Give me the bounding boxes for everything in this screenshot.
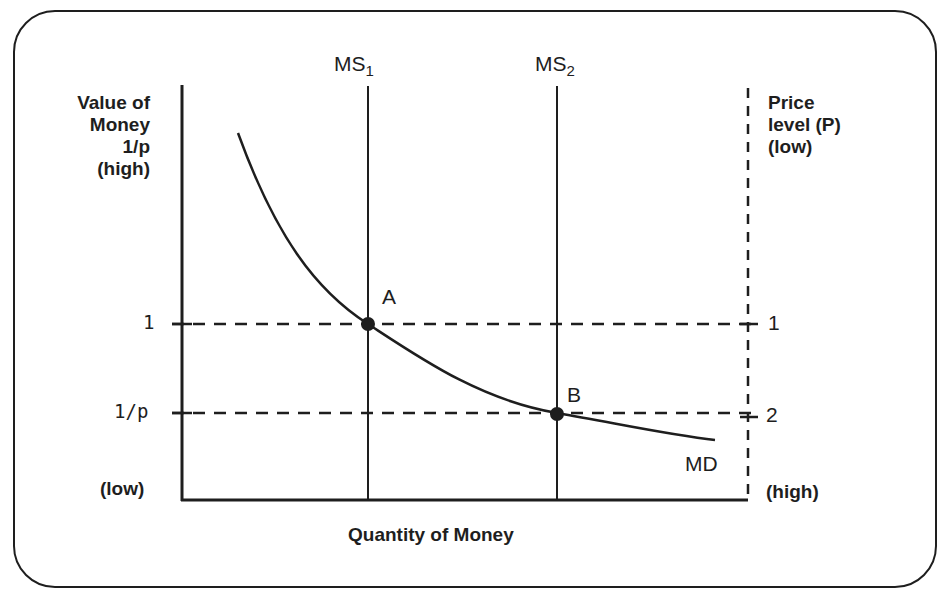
right-tick-1: 1 [768,311,780,335]
point-a-marker [361,317,375,331]
point-b-label: B [567,383,581,407]
md-curve [238,133,715,440]
point-a-label: A [382,285,396,309]
right-tick-2: 2 [766,403,778,427]
ms2-label: MS2 [535,52,575,79]
point-b-marker [550,407,564,421]
chart-plot [0,0,951,596]
left-axis-title: Value of Money 1/p (high) [40,92,150,180]
left-tick-1: 1 [143,311,154,333]
ms1-label: MS1 [334,52,374,79]
x-axis-title: Quantity of Money [348,524,514,546]
left-low-label: (low) [100,478,144,500]
left-tick-1p: 1/p [114,400,148,422]
right-high-label: (high) [766,481,819,503]
md-label: MD [685,452,718,476]
right-axis-title: Price level (P) (low) [768,92,841,158]
